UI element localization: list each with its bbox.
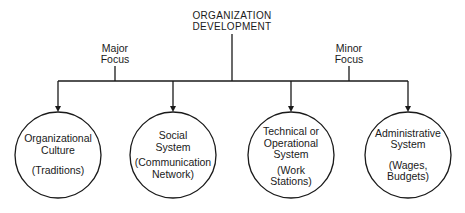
root-line2: DEVELOPMENT xyxy=(193,21,272,32)
root-line1: ORGANIZATION xyxy=(193,10,272,21)
node-title: System xyxy=(390,139,425,151)
node-title: System xyxy=(155,142,190,154)
node-subtitle: Network) xyxy=(152,169,194,181)
node-title: Social xyxy=(159,130,188,142)
focus-line2: Focus xyxy=(335,54,364,65)
node-title: Culture xyxy=(41,145,75,157)
node-subtitle: Budgets) xyxy=(387,171,429,183)
node-subtitle: Stations) xyxy=(270,176,311,188)
focus-line2: Focus xyxy=(101,54,130,65)
node-administrative-system: Administrative System (Wages, Budgets) xyxy=(365,112,451,198)
node-subtitle: (Traditions) xyxy=(32,165,85,177)
minor-focus-label: Minor Focus xyxy=(335,43,364,65)
node-title: System xyxy=(273,149,308,161)
root-label: ORGANIZATION DEVELOPMENT xyxy=(193,10,272,32)
node-organizational-culture: Organizational Culture (Traditions) xyxy=(15,112,101,198)
node-subtitle: (Communication xyxy=(135,157,211,169)
arrow-icon xyxy=(288,106,294,112)
node-social-system: Social System (Communication Network) xyxy=(130,112,216,198)
node-technical-operational-system: Technical or Operational System (Work St… xyxy=(248,114,334,200)
major-focus-label: Major Focus xyxy=(101,43,130,65)
